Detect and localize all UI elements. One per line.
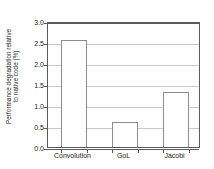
bar-chart: Performance degradation relative to nati… [0,0,214,169]
y-axis-tick-label: 0.5 [34,124,44,131]
y-axis-title-line-2: to native code (%) [13,28,20,123]
bar-convolution [61,40,87,147]
y-axis-tick-label: 0.0 [34,145,44,152]
y-axis-tick-label: 1.5 [34,82,44,89]
plot-area [47,22,200,148]
y-axis-tick-mark [44,23,48,24]
y-axis-tick-label: 1.0 [34,103,44,110]
y-axis-tick-label: 2.0 [34,61,44,68]
x-axis-tick-labels: ConvolutionGoLJacobi [47,151,200,165]
gridline [48,23,199,24]
gridline [48,149,199,150]
y-axis-tick-mark [44,149,48,150]
y-axis-tick-mark [44,128,48,129]
y-axis-tick-mark [44,65,48,66]
x-axis-label-convolution: Convolution [54,151,91,160]
y-axis-tick-label: 3.0 [34,19,44,26]
y-axis-tick-mark [44,107,48,108]
x-axis-label-jacobi: Jacobi [164,151,184,160]
y-axis-title: Performance degradation relative to nati… [0,0,26,152]
x-axis-label-gol: GoL [117,151,130,160]
bar-gol [112,122,138,147]
bar-jacobi [163,92,189,147]
y-axis-tick-label: 2.5 [34,40,44,47]
y-axis-tick-mark [44,44,48,45]
y-axis-tick-mark [44,86,48,87]
y-axis-tick-labels: 0.00.51.01.52.02.53.0 [24,22,46,148]
